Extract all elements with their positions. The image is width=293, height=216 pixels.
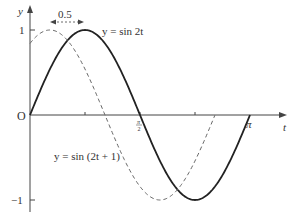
y-tick-label-minus-1: −1 bbox=[11, 194, 23, 206]
chart: y t O 1 −1 π π 2 0.5 y = sin 2t y = sin … bbox=[0, 0, 293, 216]
x-axis-arrow-icon bbox=[279, 112, 287, 118]
y-tick-label-1: 1 bbox=[19, 24, 25, 36]
shift-label: 0.5 bbox=[58, 8, 72, 20]
svg-text:2: 2 bbox=[138, 126, 141, 132]
shift-arrow-right-icon bbox=[78, 20, 84, 25]
y-axis-arrow-icon bbox=[27, 5, 33, 13]
x-tick-label-half-pi: π 2 bbox=[136, 119, 142, 132]
origin-label: O bbox=[17, 109, 26, 123]
svg-text:π: π bbox=[137, 119, 141, 125]
y-axis-label: y bbox=[17, 5, 23, 17]
plot-svg: y t O 1 −1 π π 2 0.5 y = sin 2t y = sin … bbox=[0, 0, 293, 216]
x-tick-label-pi: π bbox=[246, 118, 252, 130]
dashed-curve-label: y = sin (2t + 1) bbox=[54, 150, 120, 163]
shift-arrow-left-icon bbox=[50, 20, 56, 25]
t-axis-label: t bbox=[283, 121, 287, 133]
solid-curve-label: y = sin 2t bbox=[102, 25, 143, 37]
